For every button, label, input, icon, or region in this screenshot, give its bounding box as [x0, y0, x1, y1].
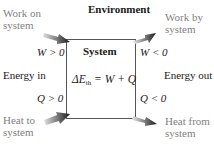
- equation-lhs: ΔE: [72, 73, 86, 85]
- heat-from-line2: system: [165, 127, 210, 139]
- heat-to-line2: system: [3, 126, 35, 138]
- environment-label: Environment: [88, 4, 150, 15]
- heat-positive-condition: Q > 0: [37, 93, 63, 104]
- equation-rhs: = W + Q: [91, 73, 136, 85]
- work-on-system-label: Work on system: [3, 7, 41, 31]
- energy-in-label: Energy in: [3, 70, 46, 81]
- heat-out-arrow: [132, 116, 157, 126]
- energy-out-label: Energy out: [164, 70, 212, 81]
- work-by-line1: Work by: [165, 11, 203, 23]
- heat-negative-condition: Q < 0: [140, 93, 166, 104]
- system-label: System: [83, 46, 117, 57]
- work-negative-condition: W < 0: [140, 47, 168, 58]
- heat-from-line1: Heat from: [165, 115, 210, 127]
- work-by-line2: system: [165, 23, 203, 35]
- work-by-system-label: Work by system: [165, 11, 203, 35]
- work-positive-condition: W > 0: [37, 47, 65, 58]
- heat-to-line1: Heat to: [3, 114, 35, 126]
- work-on-line2: system: [3, 19, 41, 31]
- energy-equation: ΔEth = W + Q: [72, 74, 136, 87]
- heat-from-system-label: Heat from system: [165, 115, 210, 139]
- heat-to-system-label: Heat to system: [3, 114, 35, 138]
- work-on-line1: Work on: [3, 7, 41, 19]
- work-in-arrow: [43, 33, 70, 44]
- work-out-arrow: [133, 33, 156, 44]
